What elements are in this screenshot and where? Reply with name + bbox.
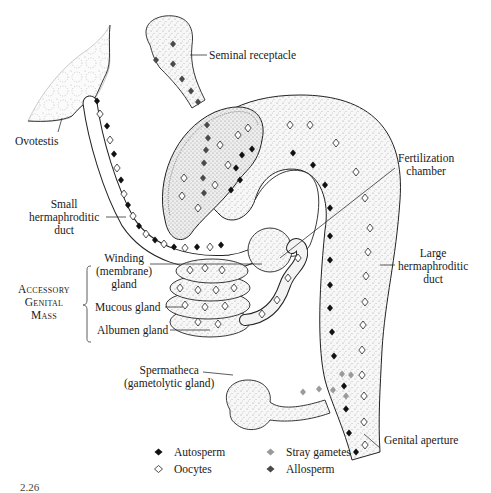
legend-item-oocytes: Oocytes bbox=[154, 463, 212, 475]
oocyte-marker-icon bbox=[154, 465, 163, 473]
stray-gamete-marker-icon bbox=[266, 448, 275, 456]
label-albumen-gland: Albumen gland bbox=[97, 324, 168, 337]
label-seminal-receptacle: Seminal receptacle bbox=[209, 49, 296, 62]
legend-item-allosperm: Allosperm bbox=[266, 463, 335, 475]
label-mucous-gland: Mucous gland bbox=[95, 301, 160, 314]
legend-item-autosperm: Autosperm bbox=[154, 446, 225, 458]
label-small-hermaphroditic-duct: Small hermaphroditic duct bbox=[29, 198, 99, 237]
spermatheca bbox=[226, 380, 330, 430]
allosperm-marker-icon bbox=[266, 465, 275, 473]
autosperm-marker-icon bbox=[154, 448, 163, 456]
label-ovotestis: Ovotestis bbox=[15, 135, 58, 148]
label-winding-gland: Winding (membrane) gland bbox=[96, 252, 152, 291]
label-large-hermaphroditic-duct: Large hermaphroditic duct bbox=[398, 247, 468, 286]
figure-caption-fragment: 2.26 bbox=[20, 481, 39, 493]
label-genital-aperture: Genital aperture bbox=[384, 434, 458, 447]
legend-item-stray-gametes: Stray gametes bbox=[266, 446, 351, 458]
label-accessory-genital-mass: Accessory Genital Mass bbox=[18, 283, 70, 322]
label-spermatheca: Spermatheca (gametolytic gland) bbox=[124, 364, 214, 390]
label-fertilization-chamber: Fertilization chamber bbox=[398, 152, 454, 178]
fertilization-chamber bbox=[248, 228, 292, 272]
